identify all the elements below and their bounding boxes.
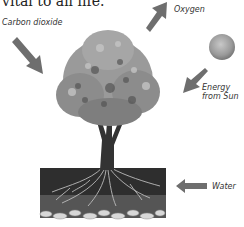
carbon-dioxide-label: Carbon dioxide	[2, 18, 63, 27]
water-arrow-icon	[176, 179, 207, 193]
carbon-dioxide-arrow-icon	[12, 37, 43, 74]
tree-foliage	[56, 30, 160, 126]
oxygen-arrow-icon	[146, 2, 167, 32]
tree-diagram	[0, 0, 244, 227]
energy-label-line1: Energy	[202, 83, 230, 92]
oxygen-label: Oxygen	[174, 5, 205, 14]
sun-icon	[209, 34, 235, 60]
soil-illustration	[40, 168, 166, 219]
water-label: Water	[212, 182, 236, 191]
energy-label-line2: from Sun	[202, 92, 239, 101]
